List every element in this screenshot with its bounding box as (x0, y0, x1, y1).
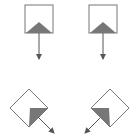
glyph-top-right (89, 5, 117, 59)
diagram-canvas (0, 0, 136, 140)
glyph-bottom-right (85, 89, 129, 133)
arrow-down-right-icon (38, 117, 54, 133)
glyph-bottom-left (10, 89, 54, 133)
arrow-down-left-icon (85, 118, 100, 133)
glyph-top-left (25, 5, 53, 59)
